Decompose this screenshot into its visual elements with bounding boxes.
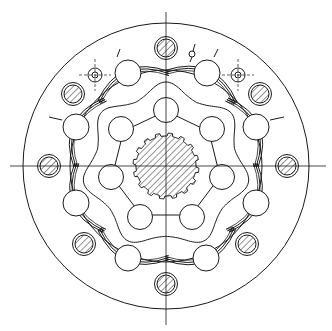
bolt-pin: [236, 233, 259, 256]
rib-3: [270, 117, 284, 120]
outer-roller: [115, 60, 141, 86]
inner-roller: [210, 165, 235, 190]
inner-roller: [99, 165, 124, 190]
outer-roller: [194, 60, 220, 86]
bolt-pin: [73, 233, 96, 256]
rib-0: [117, 49, 120, 57]
bolt-pin-hatched: [64, 85, 82, 103]
inner-roller: [200, 117, 225, 142]
valve-leg: [190, 57, 192, 62]
bolt-pin: [62, 83, 85, 106]
inner-roller: [128, 205, 153, 230]
rib-2: [49, 117, 62, 120]
valve-symbol: [189, 44, 195, 62]
valve-stem: [193, 44, 195, 51]
inner-roller: [180, 205, 205, 230]
outer-roller: [193, 245, 219, 271]
outer-roller: [243, 114, 269, 140]
bolt-pin: [249, 83, 272, 106]
valve-ball: [189, 51, 195, 57]
inner-roller: [109, 117, 134, 142]
outer-roller: [63, 114, 89, 140]
small-hole: [222, 59, 254, 91]
motor-cross-section-drawing: [0, 0, 332, 331]
bolt-pin-hatched: [251, 85, 269, 103]
outer-roller: [115, 245, 141, 271]
rib-1: [214, 49, 218, 57]
outer-roller: [243, 190, 269, 216]
bolt-pin-hatched: [238, 235, 256, 253]
bolt-pin-hatched: [75, 235, 93, 253]
outer-roller: [63, 190, 89, 216]
